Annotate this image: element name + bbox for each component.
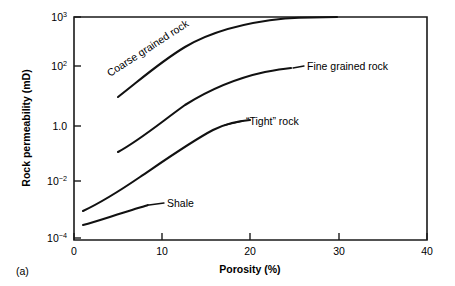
x-tick-label-10: 10	[156, 245, 168, 257]
x-tick-label-40: 40	[421, 245, 433, 257]
curve-fine-grained-rock	[118, 68, 291, 152]
x-tick-label-30: 30	[333, 245, 345, 257]
y-tick-label-1e-4: 10−4	[47, 231, 67, 244]
curve-shale	[83, 205, 148, 225]
y-tick-labels: 103 102 1.0 10−2 10−4	[47, 10, 67, 244]
series-label-shale: Shale	[167, 197, 194, 209]
series-labels: Coarse grained rock Fine grained rock “T…	[105, 17, 389, 209]
axis-frame-path	[74, 17, 427, 240]
x-tick-label-20: 20	[244, 245, 256, 257]
series-label-tight-rock: “Tight” rock	[246, 115, 299, 127]
x-tick-labels: 0 10 20 30 40	[71, 245, 433, 257]
y-tick-label-1e0: 1.0	[52, 120, 67, 132]
series-label-coarse-grained-rock: Coarse grained rock	[105, 17, 191, 79]
series-label-fine-grained-rock: Fine grained rock	[307, 60, 389, 72]
y-tick-label-1e2: 102	[51, 59, 67, 72]
y-axis-title: Rock permeability (mD)	[20, 69, 32, 186]
curve-coarse-grained-rock	[118, 17, 337, 97]
panel-caption: (a)	[16, 265, 29, 277]
figure-panel: 103 102 1.0 10−2 10−4 0 10 20 30 40 Poro…	[0, 0, 455, 286]
data-curves	[83, 17, 337, 225]
y-tick-label-1e-2: 10−2	[47, 174, 67, 187]
leader-shale	[149, 203, 164, 205]
x-axis-ticks	[74, 233, 427, 240]
y-axis-ticks	[74, 17, 81, 238]
permeability-porosity-chart: 103 102 1.0 10−2 10−4 0 10 20 30 40 Poro…	[0, 0, 455, 286]
x-tick-label-0: 0	[71, 245, 77, 257]
x-axis-title: Porosity (%)	[219, 263, 280, 275]
plot-frame	[74, 17, 427, 240]
leader-fine-grained-rock	[293, 66, 304, 68]
label-leader-lines	[149, 66, 304, 205]
y-tick-label-1e3: 103	[51, 10, 67, 23]
